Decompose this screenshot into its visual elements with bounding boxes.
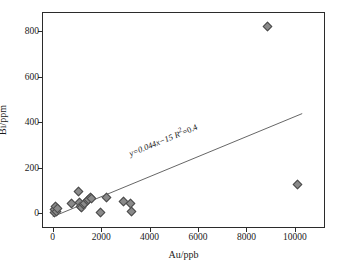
scatter-chart-figure: Bi/ppm y=0.044x−15 R2=0.4 02004006008000… <box>0 0 339 272</box>
x-axis-tick-label: 0 <box>50 232 55 242</box>
x-axis-tick-label: 2000 <box>92 232 111 242</box>
y-axis-tick-label: 800 <box>25 26 39 36</box>
x-axis-tick-label: 6000 <box>189 232 208 242</box>
y-axis-tick-label: 200 <box>25 163 39 173</box>
plot-area: y=0.044x−15 R2=0.4 020040060080002000400… <box>42 12 325 228</box>
x-axis-label: Au/ppb <box>42 249 325 260</box>
x-axis-tick-label: 4000 <box>140 232 159 242</box>
y-axis-label: Bi/ppm <box>0 90 8 150</box>
x-axis-tick-label: 8000 <box>237 232 256 242</box>
trendline-svg <box>43 13 324 227</box>
y-axis-tick-label: 600 <box>25 72 39 82</box>
y-axis-tick-label: 0 <box>34 208 39 218</box>
x-axis-tick-label: 10000 <box>283 232 307 242</box>
y-axis-tick-label: 400 <box>25 117 39 127</box>
